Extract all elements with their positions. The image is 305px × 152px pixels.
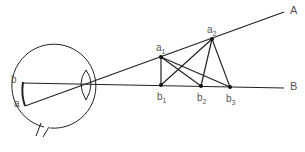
retina [22, 82, 25, 106]
diagram-canvas [0, 0, 305, 152]
label-a1: a1 [156, 43, 165, 55]
point-b2 [199, 84, 203, 88]
label-B: B [290, 81, 297, 92]
label-A: A [290, 5, 297, 16]
construction-lines [161, 39, 230, 87]
line-a [25, 12, 284, 106]
optic-nerve-right [43, 127, 49, 137]
line-b [22, 83, 284, 88]
eyeball-outline [12, 44, 96, 128]
label-a2: a2 [207, 25, 216, 37]
label-b: b [11, 75, 17, 85]
point-a1 [159, 55, 163, 59]
point-b1 [159, 83, 163, 87]
label-b3: b3 [226, 94, 235, 106]
label-b1: b1 [157, 92, 166, 104]
point-a2 [210, 37, 214, 41]
point-b3 [228, 85, 232, 89]
eye-perspective-diagram: A B b a a1 a2 b1 b2 b3 [0, 0, 305, 152]
label-a: a [14, 99, 20, 109]
label-b2: b2 [197, 93, 206, 105]
